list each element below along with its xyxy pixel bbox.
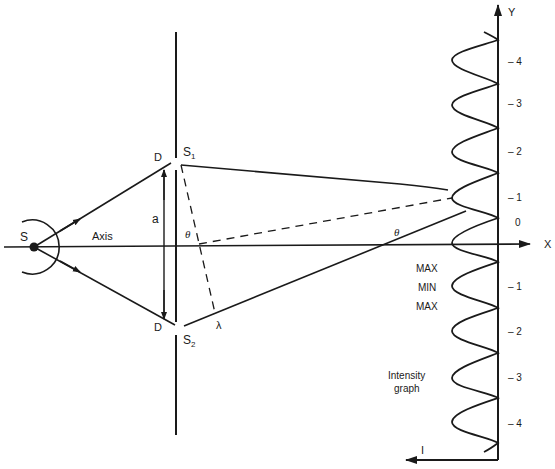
intensity-axis-label: I: [421, 444, 424, 456]
ray-arrow-upper: [60, 219, 80, 231]
angle-theta-far: θ: [394, 226, 400, 238]
intensity-curve: [452, 32, 498, 452]
order-tick-lower-4: – 4: [508, 418, 522, 429]
x-axis-label: X: [544, 238, 552, 250]
order-tick-upper-3: – 3: [508, 98, 522, 109]
double-slit-diagram: S Axis D D a S1 S2 θ θ λ X Y I MAX MIN M…: [0, 0, 555, 469]
source-label: S: [20, 230, 28, 244]
ray-s1-to-screen: [181, 165, 448, 190]
order-tick-upper-2: – 2: [508, 146, 522, 157]
axis-label: Axis: [92, 230, 113, 242]
min-label: MIN: [418, 282, 436, 293]
angle-theta-near: θ: [185, 228, 191, 240]
upper-d-label: D: [154, 151, 162, 163]
ray-source-to-lower-slit: [34, 247, 175, 325]
slit1-label: S1: [183, 145, 196, 161]
order-tick-upper-4: – 4: [508, 56, 522, 67]
lambda-label: λ: [216, 319, 222, 331]
diagram-canvas: S Axis D D a S1 S2 θ θ λ X Y I MAX MIN M…: [0, 0, 555, 469]
intensity-graph-label-line1: Intensity: [388, 370, 425, 381]
order-tick-zero: 0: [515, 217, 521, 228]
max-label-lower: MAX: [416, 301, 438, 312]
lower-d-label: D: [154, 321, 162, 333]
order-tick-lower-1: – 1: [508, 281, 522, 292]
ray-arrow-lower: [60, 261, 80, 272]
dashed-center-line: [199, 198, 452, 244]
order-tick-lower-2: – 2: [508, 326, 522, 337]
slit2-label: S2: [183, 333, 196, 349]
max-label-upper: MAX: [416, 263, 438, 274]
x-axis-line: [4, 244, 530, 247]
order-tick-lower-3: – 3: [508, 372, 522, 383]
y-axis-label: Y: [508, 6, 516, 18]
intensity-graph-label-line2: graph: [394, 383, 420, 394]
order-tick-upper-1: – 1: [508, 192, 522, 203]
separation-label: a: [152, 212, 159, 226]
